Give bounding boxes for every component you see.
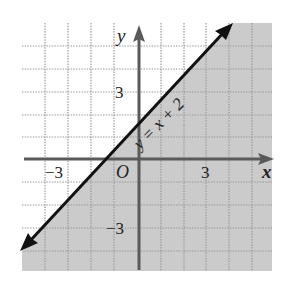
x-tick-3: 3 bbox=[201, 163, 210, 182]
y-tick-neg3: −3 bbox=[106, 219, 124, 238]
x-tick-neg3: −3 bbox=[45, 163, 63, 182]
y-tick-3: 3 bbox=[115, 83, 124, 102]
y-axis-label: y bbox=[115, 25, 126, 46]
x-axis-label: x bbox=[261, 161, 272, 182]
origin-label: O bbox=[116, 162, 129, 182]
inequality-graph: y x O 3 −3 −3 3 y = x + 2 bbox=[0, 0, 286, 289]
